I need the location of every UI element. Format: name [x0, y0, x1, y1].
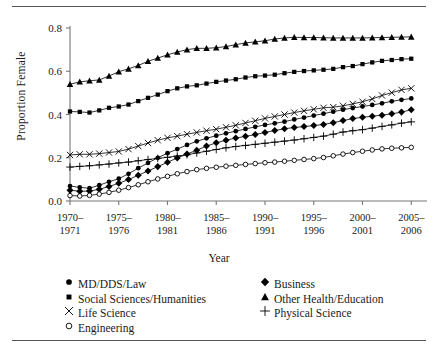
filled-triangle-icon: [125, 66, 132, 72]
filled-diamond-icon: [378, 112, 385, 119]
filled-circle-icon: [194, 139, 199, 144]
cross-x-icon: [125, 146, 131, 152]
x-tick-label-line2: 2006: [401, 225, 422, 236]
filled-circle-icon: [272, 121, 277, 126]
filled-diamond-icon: [258, 276, 271, 288]
figure-container: 0.00.20.40.60.81970–19711975–19761980–19…: [0, 0, 438, 351]
filled-diamond-icon: [408, 106, 415, 113]
open-circle-icon: [350, 150, 355, 155]
cross-x-icon: [62, 305, 75, 317]
filled-square-icon: [107, 106, 111, 110]
filled-square-icon: [87, 110, 91, 114]
x-tick-label-line2: 2001: [352, 225, 373, 236]
filled-circle-icon: [292, 117, 297, 122]
legend-entry[interactable]: Physical Science: [258, 305, 436, 320]
plus-icon: [368, 124, 376, 132]
legend-entry[interactable]: Other Health/Education: [258, 291, 436, 306]
open-circle-icon: [360, 149, 365, 154]
filled-diamond-icon: [349, 115, 356, 122]
filled-square-icon: [370, 60, 374, 64]
filled-circle-icon: [243, 127, 248, 132]
plus-icon: [310, 134, 318, 142]
filled-square-icon: [195, 83, 199, 87]
open-circle-icon: [302, 157, 307, 162]
filled-square-icon: [409, 57, 413, 61]
x-tick-label-line1: 1970–: [57, 212, 84, 223]
filled-square-icon: [360, 62, 364, 66]
plus-icon: [258, 305, 271, 317]
cross-x-icon: [359, 99, 365, 105]
filled-circle-icon: [224, 131, 229, 136]
filled-square-icon: [399, 57, 403, 61]
legend-entry[interactable]: MD/DDS/Law: [62, 276, 258, 291]
plus-icon: [76, 163, 84, 171]
filled-circle-icon: [331, 109, 336, 114]
filled-square-icon: [312, 68, 316, 72]
y-tick-label: 0.2: [48, 152, 62, 164]
x-tick-label-line2: 1971: [60, 225, 81, 236]
cross-x-icon: [145, 140, 151, 146]
open-circle-icon: [272, 160, 277, 165]
open-circle-icon: [97, 192, 102, 197]
filled-diamond-icon: [330, 119, 337, 126]
plus-icon: [281, 137, 289, 145]
filled-square-icon: [68, 109, 72, 113]
plus-icon: [251, 141, 259, 149]
filled-diamond-icon: [339, 117, 346, 124]
filled-circle-icon: [253, 124, 258, 129]
open-circle-icon: [136, 183, 141, 188]
cross-x-icon: [369, 96, 375, 102]
plus-icon: [183, 151, 191, 159]
filled-square-icon: [282, 71, 286, 75]
legend-label: Physical Science: [274, 308, 352, 320]
plus-icon: [115, 159, 123, 167]
plus-icon: [203, 147, 211, 155]
filled-square-icon: [214, 80, 218, 84]
open-circle-icon: [165, 174, 170, 179]
x-tick-label-line1: 2000–: [349, 212, 376, 223]
plus-icon: [95, 161, 103, 169]
plus-icon: [212, 146, 220, 154]
plus-icon: [144, 156, 152, 164]
x-tick-label-line1: 1980–: [154, 212, 181, 223]
filled-square-icon: [321, 68, 325, 72]
cross-x-icon: [389, 90, 395, 96]
filled-circle-icon: [302, 115, 307, 120]
filled-square-icon: [273, 73, 277, 77]
filled-square-icon: [66, 294, 71, 299]
filled-diamond-icon: [260, 278, 268, 286]
filled-square-icon: [78, 110, 82, 114]
plus-icon: [290, 136, 298, 144]
filled-square-icon: [204, 81, 208, 85]
plus-icon: [398, 119, 406, 127]
open-circle-icon: [62, 320, 75, 332]
open-circle-icon: [126, 185, 131, 190]
legend-entry[interactable]: Social Sciences/Humanities: [62, 291, 258, 306]
y-tick-label: 0.0: [48, 195, 62, 207]
filled-diamond-icon: [154, 163, 161, 170]
open-circle-icon: [282, 159, 287, 164]
filled-diamond-icon: [115, 180, 122, 187]
filled-square-icon: [185, 84, 189, 88]
chart-svg: 0.00.20.40.60.81970–19711975–19761980–19…: [0, 12, 438, 252]
legend-entry[interactable]: Business: [258, 276, 436, 291]
filled-diamond-icon: [310, 122, 317, 129]
open-circle-icon: [146, 179, 151, 184]
plus-icon: [134, 157, 142, 165]
x-tick-label-line2: 1981: [157, 225, 178, 236]
x-tick-label-line1: 2005–: [398, 212, 425, 223]
filled-diamond-icon: [252, 131, 259, 138]
filled-triangle-icon: [261, 293, 269, 300]
filled-square-icon: [263, 73, 267, 77]
filled-diamond-icon: [232, 135, 239, 142]
series-physical-science: [66, 118, 415, 171]
open-circle-icon: [321, 155, 326, 160]
legend-entry[interactable]: Engineering: [62, 320, 258, 335]
legend-entry[interactable]: Life Science: [62, 305, 258, 320]
x-tick-label-line1: 1985–: [203, 212, 230, 223]
plus-icon: [66, 163, 74, 171]
filled-diamond-icon: [359, 114, 366, 121]
open-circle-icon: [194, 167, 199, 172]
x-tick-label-line1: 1990–: [252, 212, 279, 223]
filled-square-icon: [292, 70, 296, 74]
